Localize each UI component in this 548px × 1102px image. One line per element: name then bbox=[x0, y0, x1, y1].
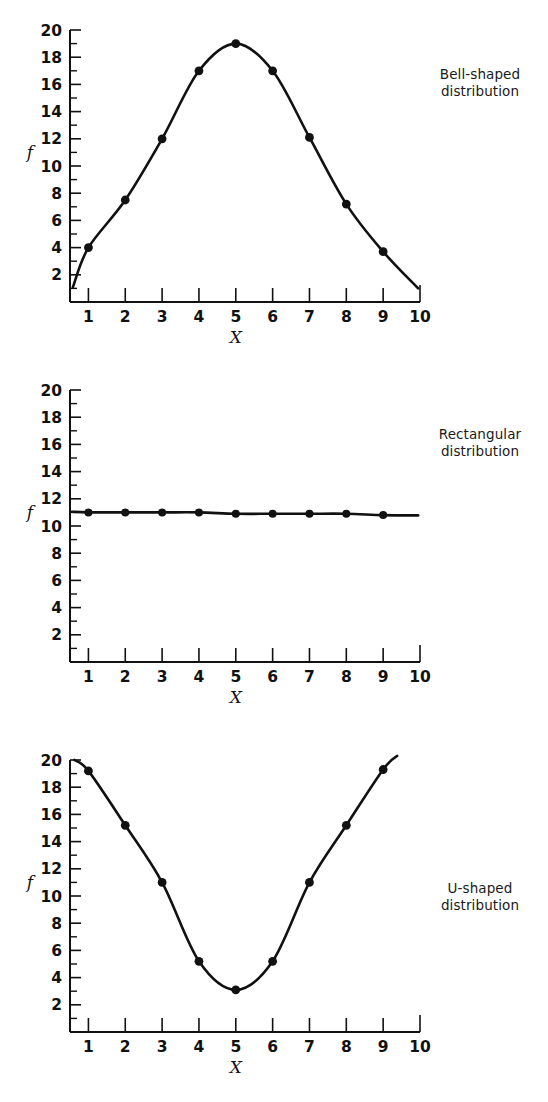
svg-text:4: 4 bbox=[51, 969, 62, 987]
svg-text:14: 14 bbox=[40, 463, 62, 481]
bell-shaped-plot: 2468101214161820f12345678910X bbox=[0, 0, 548, 360]
svg-text:10: 10 bbox=[409, 308, 431, 326]
data-point bbox=[305, 133, 314, 142]
svg-text:X: X bbox=[228, 687, 243, 707]
data-point bbox=[305, 510, 313, 518]
svg-text:14: 14 bbox=[40, 103, 62, 121]
data-point bbox=[84, 508, 92, 516]
chart-caption-u-shaped: U-shaped distribution bbox=[418, 880, 542, 913]
caption-line-1: Bell-shaped bbox=[418, 66, 542, 83]
svg-text:16: 16 bbox=[40, 436, 62, 454]
caption-line-1: U-shaped bbox=[418, 880, 542, 897]
data-point bbox=[231, 985, 240, 994]
svg-text:10: 10 bbox=[40, 158, 62, 176]
svg-text:1: 1 bbox=[83, 1038, 94, 1056]
chart-caption-bell-shaped: Bell-shaped distribution bbox=[418, 66, 542, 99]
data-point bbox=[379, 765, 388, 774]
svg-text:5: 5 bbox=[230, 668, 241, 686]
svg-text:1: 1 bbox=[83, 668, 94, 686]
caption-line-2: distribution bbox=[418, 83, 542, 100]
svg-text:2: 2 bbox=[120, 1038, 131, 1056]
data-point bbox=[232, 510, 240, 518]
svg-text:8: 8 bbox=[341, 668, 352, 686]
data-point bbox=[158, 508, 166, 516]
data-point bbox=[84, 766, 93, 775]
u-shaped-plot: 2468101214161820f12345678910X bbox=[0, 730, 548, 1102]
data-point bbox=[121, 821, 130, 830]
svg-text:4: 4 bbox=[194, 308, 205, 326]
data-point bbox=[195, 508, 203, 516]
svg-text:3: 3 bbox=[157, 668, 168, 686]
svg-text:8: 8 bbox=[51, 545, 62, 563]
data-point bbox=[379, 247, 388, 256]
data-point bbox=[268, 66, 277, 75]
data-point bbox=[121, 508, 129, 516]
data-point bbox=[342, 510, 350, 518]
svg-text:7: 7 bbox=[304, 668, 315, 686]
svg-text:20: 20 bbox=[40, 382, 62, 400]
svg-text:10: 10 bbox=[409, 1038, 431, 1056]
svg-text:9: 9 bbox=[378, 308, 389, 326]
svg-text:2: 2 bbox=[120, 308, 131, 326]
data-point bbox=[305, 878, 314, 887]
svg-text:2: 2 bbox=[120, 668, 131, 686]
svg-text:12: 12 bbox=[40, 860, 62, 878]
svg-text:5: 5 bbox=[230, 1038, 241, 1056]
svg-text:3: 3 bbox=[157, 1038, 168, 1056]
svg-text:8: 8 bbox=[51, 185, 62, 203]
svg-text:3: 3 bbox=[157, 308, 168, 326]
data-point bbox=[121, 196, 130, 205]
data-point bbox=[231, 39, 240, 48]
svg-text:8: 8 bbox=[341, 1038, 352, 1056]
svg-text:4: 4 bbox=[194, 1038, 205, 1056]
svg-text:12: 12 bbox=[40, 130, 62, 148]
data-point bbox=[158, 878, 167, 887]
svg-text:6: 6 bbox=[267, 308, 278, 326]
data-point bbox=[342, 821, 351, 830]
chart-caption-rectangular: Rectangular distribution bbox=[418, 426, 542, 459]
svg-text:18: 18 bbox=[40, 409, 62, 427]
svg-text:4: 4 bbox=[194, 668, 205, 686]
svg-text:7: 7 bbox=[304, 1038, 315, 1056]
data-point bbox=[158, 134, 167, 143]
rectangular-plot: 2468101214161820f12345678910X bbox=[0, 360, 548, 730]
svg-text:2: 2 bbox=[51, 996, 62, 1014]
svg-text:14: 14 bbox=[40, 833, 62, 851]
data-point bbox=[379, 511, 387, 519]
svg-text:12: 12 bbox=[40, 490, 62, 508]
svg-text:8: 8 bbox=[51, 915, 62, 933]
data-point bbox=[342, 200, 351, 209]
caption-line-1: Rectangular bbox=[418, 426, 542, 443]
svg-text:20: 20 bbox=[40, 22, 62, 40]
svg-text:f: f bbox=[25, 872, 36, 892]
svg-text:18: 18 bbox=[40, 779, 62, 797]
svg-text:10: 10 bbox=[40, 888, 62, 906]
svg-text:1: 1 bbox=[83, 308, 94, 326]
chart-panel-rectangular: 2468101214161820f12345678910X Rectangula… bbox=[0, 360, 548, 730]
svg-text:6: 6 bbox=[51, 212, 62, 230]
chart-panel-bell-shaped: 2468101214161820f12345678910X Bell-shape… bbox=[0, 0, 548, 360]
svg-text:18: 18 bbox=[40, 49, 62, 67]
svg-text:7: 7 bbox=[304, 308, 315, 326]
svg-text:10: 10 bbox=[40, 518, 62, 536]
caption-line-2: distribution bbox=[418, 897, 542, 914]
svg-text:9: 9 bbox=[378, 668, 389, 686]
svg-text:16: 16 bbox=[40, 806, 62, 824]
svg-text:f: f bbox=[25, 502, 36, 522]
svg-text:5: 5 bbox=[230, 308, 241, 326]
svg-text:X: X bbox=[228, 1057, 243, 1077]
data-point bbox=[268, 957, 277, 966]
caption-line-2: distribution bbox=[418, 443, 542, 460]
svg-text:6: 6 bbox=[51, 572, 62, 590]
svg-text:X: X bbox=[228, 327, 243, 347]
svg-text:8: 8 bbox=[341, 308, 352, 326]
data-point bbox=[195, 957, 204, 966]
data-point bbox=[269, 510, 277, 518]
svg-text:f: f bbox=[25, 142, 36, 162]
svg-text:16: 16 bbox=[40, 76, 62, 94]
svg-text:2: 2 bbox=[51, 626, 62, 644]
data-point bbox=[195, 66, 204, 75]
svg-text:2: 2 bbox=[51, 266, 62, 284]
svg-text:6: 6 bbox=[267, 668, 278, 686]
svg-text:9: 9 bbox=[378, 1038, 389, 1056]
